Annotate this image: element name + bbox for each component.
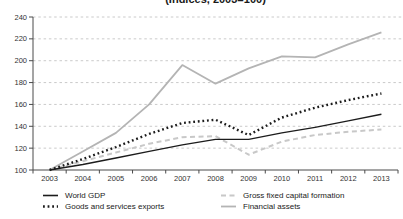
svg-text:120: 120: [14, 144, 27, 153]
svg-text:2003: 2003: [41, 174, 58, 183]
svg-text:240: 240: [14, 13, 27, 22]
svg-text:2005: 2005: [108, 174, 125, 183]
chart-figure: (Indices, 2003=100) 10012014016018020022…: [0, 0, 403, 219]
exports-dotted-marker-icon: [42, 202, 59, 211]
legend-item-gross-fixed-capital-formation: Gross fixed capital formation: [220, 190, 344, 201]
legend-label-world-gdp: World GDP: [65, 191, 105, 200]
svg-text:180: 180: [14, 78, 27, 87]
svg-text:2010: 2010: [274, 174, 291, 183]
legend-label-financial-assets: Financial assets: [243, 202, 300, 211]
legend-label-gross-fixed-capital-formation: Gross fixed capital formation: [243, 191, 344, 200]
svg-text:2006: 2006: [141, 174, 158, 183]
svg-text:2007: 2007: [174, 174, 191, 183]
svg-text:220: 220: [14, 34, 27, 43]
svg-text:2008: 2008: [207, 174, 224, 183]
financial-assets-line-marker-icon: [220, 202, 237, 211]
svg-text:160: 160: [14, 100, 27, 109]
svg-text:2004: 2004: [74, 174, 91, 183]
legend-item-goods-services-exports: Goods and services exports: [42, 201, 164, 212]
legend-item-financial-assets: Financial assets: [220, 201, 344, 212]
legend-label-goods-services-exports: Goods and services exports: [65, 202, 164, 211]
svg-text:2011: 2011: [307, 174, 323, 183]
svg-text:2009: 2009: [240, 174, 257, 183]
legend-column-right: Gross fixed capital formation Financial …: [220, 190, 344, 212]
svg-text:2012: 2012: [340, 174, 357, 183]
svg-text:200: 200: [14, 56, 27, 65]
legend-item-world-gdp: World GDP: [42, 190, 164, 201]
gfcf-dashed-marker-icon: [220, 191, 237, 200]
svg-text:100: 100: [14, 166, 27, 175]
world-gdp-line-marker-icon: [42, 191, 59, 200]
svg-text:140: 140: [14, 122, 27, 131]
svg-text:2013: 2013: [373, 174, 390, 183]
line-chart: 1001201401601802002202402003200420052006…: [0, 0, 403, 186]
chart-legend: World GDP Goods and services exports Gro…: [0, 190, 403, 216]
legend-column-left: World GDP Goods and services exports: [42, 190, 164, 212]
